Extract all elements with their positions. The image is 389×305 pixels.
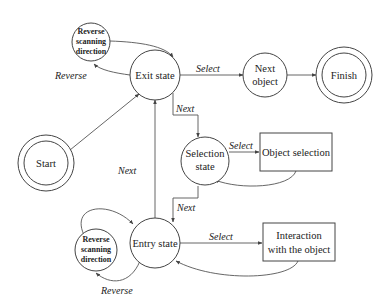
state-diagram: Reverse Select Next Select Next Next Sel… [0, 0, 389, 305]
edge-label-select-exit: Select [196, 63, 220, 74]
edge-label-reverse-top: Reverse [54, 70, 87, 81]
svg-text:Reverse: Reverse [82, 235, 110, 244]
svg-text:with the object: with the object [268, 244, 330, 255]
edge-start-to-exit [70, 94, 139, 150]
svg-text:Object selection: Object selection [262, 147, 331, 158]
node-entry-state: Entry state [130, 218, 180, 268]
node-next-object: Next object [243, 53, 287, 97]
edge-exit-to-reverse-top [94, 64, 130, 75]
svg-text:state: state [195, 161, 215, 172]
svg-text:Reverse: Reverse [77, 27, 105, 36]
svg-text:Exit state: Exit state [135, 70, 175, 81]
edge-label-select-entry: Select [209, 231, 233, 242]
svg-text:direction: direction [81, 255, 112, 264]
svg-text:Start: Start [36, 158, 56, 169]
edge-label-next-selection-entry: Next [176, 202, 196, 213]
node-reverse-scanning-bottom: Reverse scanning direction [75, 229, 117, 271]
svg-text:Next: Next [255, 63, 275, 74]
svg-text:direction: direction [76, 47, 107, 56]
edge-object-selection-to-selection [215, 171, 296, 186]
node-interaction: Interaction with the object [263, 223, 335, 261]
node-finish: Finish [316, 47, 372, 103]
edge-label-next-exit-selection: Next [175, 103, 195, 114]
svg-text:Interaction: Interaction [276, 230, 322, 241]
node-start: Start [18, 135, 74, 191]
edge-label-next-entry-exit: Next [117, 165, 137, 176]
node-selection-state: Selection state [181, 137, 229, 185]
svg-text:Finish: Finish [331, 70, 358, 81]
node-exit-state: Exit state [130, 50, 180, 100]
svg-text:object: object [252, 76, 278, 87]
edge-interaction-to-entry [176, 261, 298, 276]
svg-text:scanning: scanning [76, 37, 106, 46]
svg-text:Selection: Selection [185, 148, 225, 159]
svg-text:scanning: scanning [81, 245, 111, 254]
edge-exit-to-selection [173, 93, 198, 137]
node-object-selection: Object selection [260, 133, 332, 171]
svg-text:Entry state: Entry state [132, 238, 178, 249]
edge-label-select-selection: Select [229, 140, 253, 151]
edge-label-reverse-bottom: Reverse [100, 285, 133, 296]
node-reverse-scanning-top: Reverse scanning direction [72, 23, 110, 61]
